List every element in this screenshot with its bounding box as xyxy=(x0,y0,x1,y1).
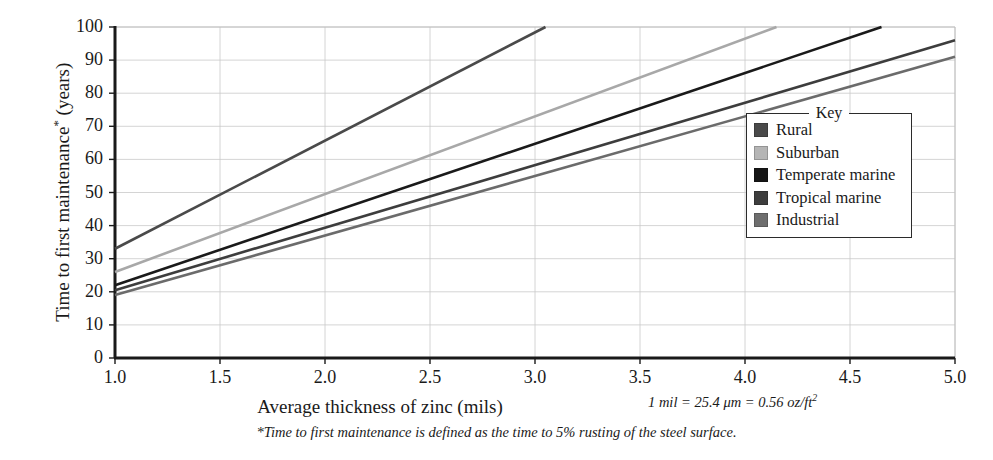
y-tick-label: 90 xyxy=(59,49,103,70)
y-tick-label: 10 xyxy=(59,314,103,335)
legend-item[interactable]: Rural xyxy=(754,119,914,142)
legend-swatch-icon xyxy=(754,146,768,160)
y-tick-label: 80 xyxy=(59,82,103,103)
legend-item-label: Tropical marine xyxy=(776,190,881,207)
unit-conversion-note: 1 mil = 25.4 μm = 0.56 oz/ft2 xyxy=(648,392,817,411)
x-tick-label: 2.0 xyxy=(295,367,355,388)
legend-item[interactable]: Suburban xyxy=(754,142,914,165)
y-tick-label: 100 xyxy=(59,16,103,37)
y-tick-label: 70 xyxy=(59,115,103,136)
x-tick-label: 2.5 xyxy=(400,367,460,388)
legend-item[interactable]: Temperate marine xyxy=(754,164,914,187)
legend-item-label: Industrial xyxy=(776,212,839,229)
zinc-coating-life-chart: Time to first maintenance* (years) Avera… xyxy=(0,0,993,460)
legend-item[interactable]: Tropical marine xyxy=(754,187,914,210)
legend-swatch-icon xyxy=(754,123,768,137)
legend-item-label: Rural xyxy=(776,122,813,139)
unit-note-prefix: 1 mil = 25.4 xyxy=(648,394,723,410)
x-tick-label: 3.5 xyxy=(610,367,670,388)
legend-item[interactable]: Industrial xyxy=(754,209,914,232)
legend-swatch-icon xyxy=(754,191,768,205)
legend-item-label: Suburban xyxy=(776,145,839,162)
y-tick-label: 20 xyxy=(59,281,103,302)
chart-footnote: *Time to first maintenance is defined as… xyxy=(0,424,993,441)
legend-items: RuralSuburbanTemperate marineTropical ma… xyxy=(754,119,914,232)
x-tick-label: 3.0 xyxy=(505,367,565,388)
x-tick-label: 1.5 xyxy=(190,367,250,388)
unit-note-superscript: 2 xyxy=(812,392,817,403)
y-tick-label: 0 xyxy=(59,347,103,368)
legend-swatch-icon xyxy=(754,213,768,227)
y-tick-label: 60 xyxy=(59,148,103,169)
legend-item-label: Temperate marine xyxy=(776,167,895,184)
y-tick-label: 40 xyxy=(59,215,103,236)
y-tick-label: 30 xyxy=(59,248,103,269)
x-tick-label: 4.0 xyxy=(715,367,775,388)
x-tick-label: 4.5 xyxy=(820,367,880,388)
x-tick-label: 5.0 xyxy=(925,367,985,388)
x-axis-title: Average thickness of zinc (mils) xyxy=(180,396,580,418)
unit-note-mid: = 0.56 oz/ft xyxy=(741,394,812,410)
x-tick-label: 1.0 xyxy=(85,367,145,388)
legend-swatch-icon xyxy=(754,168,768,182)
series-line-suburban xyxy=(115,27,777,272)
y-tick-label: 50 xyxy=(59,182,103,203)
unit-note-mu: μm xyxy=(723,394,741,410)
